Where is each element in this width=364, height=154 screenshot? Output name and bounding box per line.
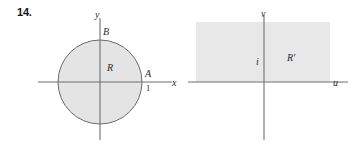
y-axis-label: y [95,10,99,20]
point-label-A: A [145,69,151,79]
point-label-B: B [103,27,109,37]
x-axis-tick-label-1: 1 [146,84,150,93]
figure-page: 14. y B R A 1 x v i R' u [0,0,364,154]
point-label-i: i [256,57,259,67]
uv-plane-figure [188,15,348,140]
u-axis-label: u [333,78,338,88]
figure-canvas [0,0,364,154]
x-axis-label: x [172,78,176,88]
region-label-R-prime: R' [287,53,295,63]
v-axis-label: v [261,9,265,19]
region-Rprime-rect [196,22,330,82]
region-label-R: R [107,63,113,73]
